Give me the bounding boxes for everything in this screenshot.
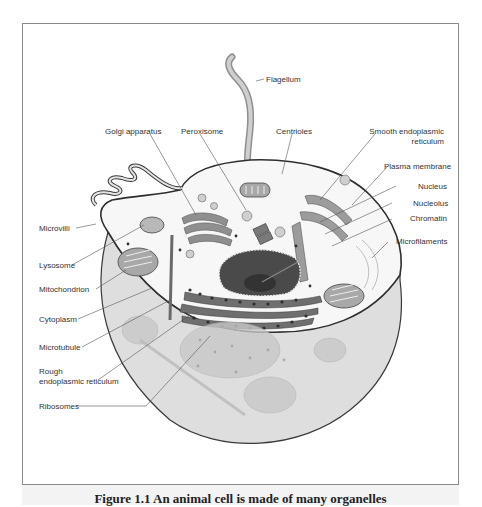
label-microfilaments: Microfilaments — [396, 237, 448, 247]
label-cytoplasm: Cytoplasm — [39, 315, 77, 325]
label-plasma-membrane: Plasma membrane — [384, 162, 451, 172]
label-smooth-er-line1: Smooth endoplasmic — [369, 127, 444, 137]
label-centrioles: Centrioles — [276, 127, 312, 137]
label-peroxisome: Peroxisome — [181, 127, 223, 137]
caption-band: Figure 1.1 An animal cell is made of man… — [22, 484, 459, 505]
golgi-apparatus-shape — [182, 213, 232, 246]
label-chromatin: Chromatin — [410, 214, 447, 224]
label-smooth-er-line2: reticulum — [369, 137, 444, 147]
label-rough-er: Rough endoplasmic reticulum — [39, 367, 119, 386]
microtubule-shape — [170, 235, 172, 320]
label-microvilli: Microvilli — [39, 224, 70, 234]
label-nucleolus: Nucleolus — [413, 199, 448, 209]
label-rough-er-line2: endoplasmic reticulum — [39, 377, 119, 387]
mitochondrion-shape — [118, 248, 158, 276]
label-mitochondrion: Mitochondrion — [39, 285, 89, 295]
label-ribosomes: Ribosomes — [39, 402, 79, 412]
label-smooth-er: Smooth endoplasmic reticulum — [369, 127, 444, 146]
label-flagellum: Flagellum — [266, 75, 301, 85]
figure-caption: Figure 1.1 An animal cell is made of man… — [22, 491, 459, 507]
label-golgi-apparatus: Golgi apparatus — [105, 127, 161, 137]
label-rough-er-line1: Rough — [39, 367, 119, 377]
label-microtubule: Microtubule — [39, 343, 80, 353]
label-nucleus: Nucleus — [418, 182, 447, 192]
label-lysosome: Lysosome — [39, 261, 75, 271]
nucleus-shape — [219, 250, 300, 296]
